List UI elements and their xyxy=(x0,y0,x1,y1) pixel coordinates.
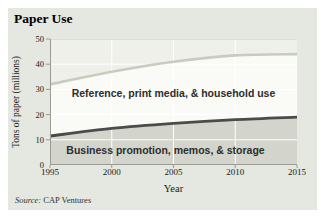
x-tick-label: 1995 xyxy=(34,167,66,178)
x-tick-label: 2015 xyxy=(281,167,313,178)
x-tick-label: 2000 xyxy=(96,167,128,178)
plot-area: Reference, print media, & household use … xyxy=(50,39,297,165)
x-tick-label: 2005 xyxy=(158,167,190,178)
y-axis-title: Tons of paper (millions) xyxy=(9,39,23,165)
y-tick-label: 30 xyxy=(8,84,44,94)
source-prefix: Source: xyxy=(15,195,41,205)
series-label-reference: Reference, print media, & household use xyxy=(50,87,297,99)
x-axis-title: Year xyxy=(50,183,297,194)
y-tick-label: 50 xyxy=(8,34,44,44)
chart-title: Paper Use xyxy=(14,11,73,27)
x-tick-label: 2010 xyxy=(219,167,251,178)
source-note: Source: CAP Ventures xyxy=(15,195,91,205)
y-tick-label: 20 xyxy=(8,110,44,120)
chart-card: Paper Use Tons of paper (millions) Refer… xyxy=(8,8,317,210)
source-text: CAP Ventures xyxy=(43,195,91,205)
y-tick-label: 10 xyxy=(8,135,44,145)
series-label-business: Business promotion, memos, & storage xyxy=(50,144,281,156)
y-tick-label: 40 xyxy=(8,59,44,69)
